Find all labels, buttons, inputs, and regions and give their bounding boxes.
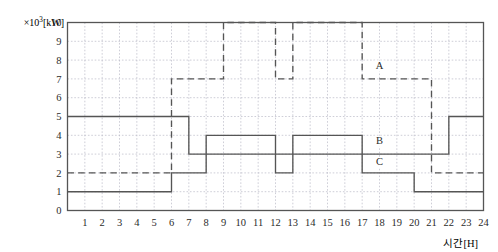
x-tick-label-24: 24 bbox=[478, 217, 489, 228]
y-tick-label-9: 9 bbox=[56, 36, 61, 47]
x-tick-label-23: 23 bbox=[461, 217, 472, 228]
series-label-A: A bbox=[376, 60, 384, 71]
y-tick-label-1: 1 bbox=[56, 186, 61, 197]
x-tick-label-19: 19 bbox=[392, 217, 403, 228]
x-tick-label-11: 11 bbox=[253, 217, 263, 228]
x-tick-label-14: 14 bbox=[305, 217, 316, 228]
x-tick-label-20: 20 bbox=[409, 217, 420, 228]
y-tick-label-3: 3 bbox=[56, 149, 61, 160]
x-tick-label-9: 9 bbox=[221, 217, 226, 228]
x-tick-label-21: 21 bbox=[426, 217, 437, 228]
x-tick-label-6: 6 bbox=[169, 217, 174, 228]
x-tick-label-18: 18 bbox=[374, 217, 385, 228]
y-tick-label-0: 0 bbox=[56, 205, 61, 216]
x-axis-title: 시간[H] bbox=[443, 238, 478, 249]
y-tick-label-4: 4 bbox=[56, 130, 62, 141]
y-tick-label-5: 5 bbox=[56, 111, 61, 122]
load-duration-chart: 012345678910 123456789101112131415161718… bbox=[0, 0, 498, 252]
chart-canvas: 012345678910 123456789101112131415161718… bbox=[0, 0, 498, 252]
x-tick-label-7: 7 bbox=[186, 217, 191, 228]
x-tick-label-12: 12 bbox=[270, 217, 281, 228]
y-tick-label-2: 2 bbox=[56, 168, 61, 179]
x-tick-label-4: 4 bbox=[134, 217, 140, 228]
y-tick-label-7: 7 bbox=[56, 74, 61, 85]
y-axis-unit-label: ×103[kW] bbox=[24, 16, 64, 28]
x-tick-label-5: 5 bbox=[152, 217, 157, 228]
x-tick-label-22: 22 bbox=[444, 217, 455, 228]
chart-background bbox=[0, 0, 498, 252]
series-label-B: B bbox=[376, 135, 383, 146]
x-tick-label-10: 10 bbox=[236, 217, 247, 228]
x-tick-label-1: 1 bbox=[82, 217, 87, 228]
x-tick-label-15: 15 bbox=[322, 217, 333, 228]
y-tick-label-8: 8 bbox=[56, 55, 61, 66]
x-tick-label-2: 2 bbox=[100, 217, 105, 228]
x-tick-label-3: 3 bbox=[117, 217, 122, 228]
x-tick-label-17: 17 bbox=[357, 217, 368, 228]
x-tick-label-8: 8 bbox=[204, 217, 209, 228]
y-tick-label-6: 6 bbox=[56, 92, 61, 103]
series-label-C: C bbox=[376, 156, 383, 167]
x-tick-label-16: 16 bbox=[340, 217, 351, 228]
x-tick-label-13: 13 bbox=[288, 217, 299, 228]
